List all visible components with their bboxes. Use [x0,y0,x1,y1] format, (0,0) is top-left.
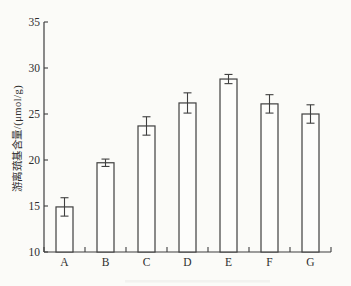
bar-C [138,126,155,252]
y-tick-label-20: 20 [29,154,41,166]
x-tick-label-F: F [266,256,272,268]
y-tick-label-15: 15 [29,200,41,212]
x-tick-label-E: E [225,256,232,268]
y-tick-label-30: 30 [29,62,41,74]
x-tick-label-B: B [102,256,110,268]
x-tick-label-G: G [306,256,314,268]
y-axis-label: 游离巯基含量/(μmol/g) [9,19,24,259]
bar-chart-figure: 101520253035ABCDEFG 游离巯基含量/(μmol/g) [0,0,351,286]
y-tick-label-35: 35 [29,16,41,28]
y-tick-label-25: 25 [29,108,41,120]
bar-E [220,79,237,252]
x-tick-label-C: C [143,256,151,268]
chart-svg: 101520253035ABCDEFG [0,0,351,286]
bar-F [261,104,278,252]
scan-artifact [125,280,270,283]
y-tick-label-10: 10 [29,246,41,258]
x-tick-label-A: A [60,256,69,268]
x-tick-label-D: D [183,256,191,268]
bar-G [302,114,319,252]
bar-B [97,163,114,252]
bar-D [179,103,196,252]
chart-background [0,0,351,286]
